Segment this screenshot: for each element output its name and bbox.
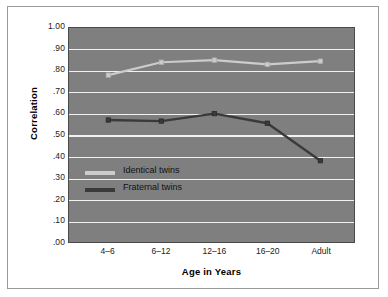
legend-label-identical-twins: Identical twins: [123, 165, 180, 175]
data-point-marker: [159, 60, 163, 64]
y-axis-tick-label: .40: [35, 151, 65, 161]
data-point-marker: [265, 62, 269, 66]
x-axis-tick-label: 4–6: [78, 246, 138, 256]
y-axis-tick-label: .90: [35, 43, 65, 53]
y-axis-tick-label: 1.00: [35, 21, 65, 31]
y-axis-tick-label: .10: [35, 215, 65, 225]
legend: Identical twins Fraternal twins: [85, 165, 225, 199]
x-axis-tick-label: 16–20: [238, 246, 298, 256]
y-axis-tick-label: .20: [35, 194, 65, 204]
legend-label-fraternal-twins: Fraternal twins: [123, 182, 182, 192]
series-layer: [69, 28, 354, 242]
legend-item: Identical twins: [85, 165, 225, 182]
data-point-marker: [106, 73, 110, 77]
x-axis-tick-labels: 4–66–1212–1616–20Adult: [68, 246, 355, 262]
y-axis-tick-label: .30: [35, 172, 65, 182]
legend-swatch-identical-twins: [85, 171, 115, 175]
chart-figure: Correlation 1.00.90.80.70.60.50.40.30.20…: [0, 0, 388, 297]
y-axis-tick-label: .50: [35, 129, 65, 139]
x-axis-tick-label: Adult: [291, 246, 351, 256]
y-axis-tick-label: .00: [35, 237, 65, 247]
data-point-marker: [212, 111, 216, 115]
x-axis-title: Age in Years: [68, 266, 355, 277]
plot-area: Identical twins Fraternal twins: [68, 27, 355, 243]
data-point-marker: [265, 121, 269, 125]
x-axis-tick-label: 12–16: [184, 246, 244, 256]
series-line: [108, 114, 320, 161]
x-axis-tick-label: 6–12: [131, 246, 191, 256]
legend-item: Fraternal twins: [85, 182, 225, 199]
data-point-marker: [106, 118, 110, 122]
y-axis-tick-label: .60: [35, 107, 65, 117]
data-point-marker: [212, 58, 216, 62]
data-point-marker: [159, 119, 163, 123]
y-axis-tick-labels: 1.00.90.80.70.60.50.40.30.20.10.00: [33, 27, 65, 243]
data-point-marker: [318, 59, 322, 63]
y-axis-tick-label: .80: [35, 64, 65, 74]
legend-swatch-fraternal-twins: [85, 188, 115, 192]
data-point-marker: [318, 159, 322, 163]
y-axis-tick-label: .70: [35, 86, 65, 96]
